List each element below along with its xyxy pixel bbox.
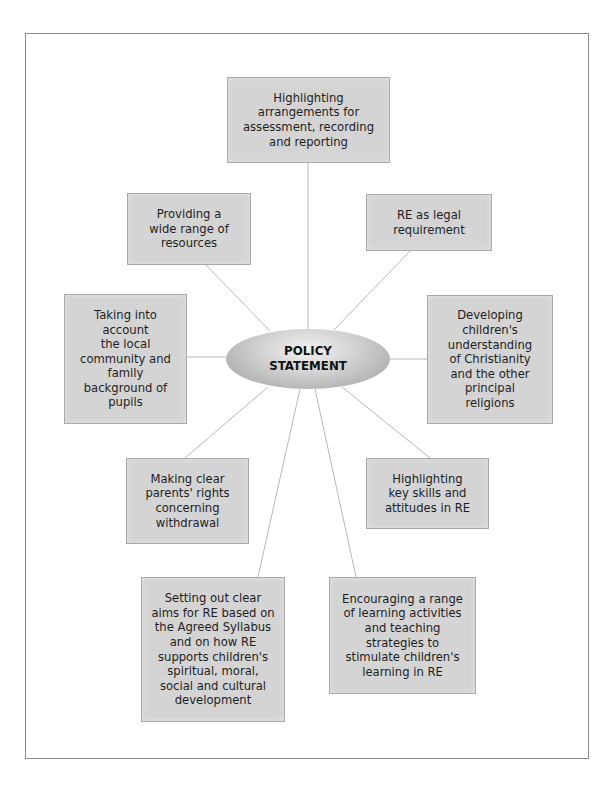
- node-legal-requirement: RE as legal requirement: [366, 194, 492, 251]
- node-christianity: Developing children's understanding of C…: [427, 295, 553, 424]
- policy-statement-hub: POLICY STATEMENT: [226, 329, 390, 389]
- node-key-skills: Highlighting key skills and attitudes in…: [366, 458, 489, 529]
- connector-skills: [342, 387, 430, 458]
- connector-activities: [315, 389, 356, 577]
- node-resources: Providing a wide range of resources: [127, 193, 251, 265]
- node-aims: Setting out clear aims for RE based on t…: [141, 577, 285, 722]
- node-community: Taking into account the local community …: [64, 294, 187, 424]
- connector-aims: [258, 389, 300, 577]
- connector-withdrawal: [185, 387, 268, 458]
- connector-legal: [334, 251, 410, 330]
- connector-resources: [206, 265, 270, 331]
- node-assessment: Highlighting arrangements for assessment…: [227, 77, 390, 163]
- node-learning-activities: Encouraging a range of learning activiti…: [329, 577, 476, 694]
- node-withdrawal: Making clear parents' rights concerning …: [126, 458, 249, 544]
